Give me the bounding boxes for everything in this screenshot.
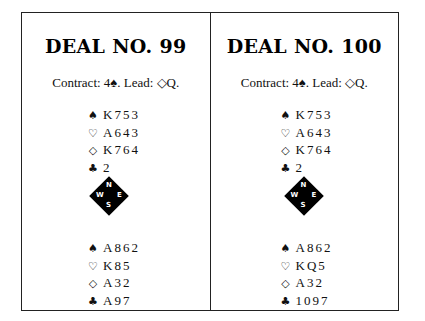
deal-panel-99: DEAL NO. 99 Contract: 4♠. Lead: ◇Q. ♠K75… [22,13,211,310]
hand-row-spades: ♠K753 [279,107,333,125]
club-icon: ♣ [279,294,293,311]
hand-row-diamonds: ◇K764 [279,142,333,160]
hand-row-spades: ♠A862 [279,240,333,258]
cards: A862 [103,240,140,255]
cards: K85 [103,258,131,273]
spade-icon: ♠ [86,241,100,258]
hand-row-diamonds: ◇K764 [86,142,140,160]
hand-row-hearts: ♡KQ5 [279,258,333,276]
heart-icon: ♡ [279,126,293,143]
spade-icon: ♠ [279,241,293,258]
compass-south-label: S [301,202,306,209]
club-icon: ♣ [279,161,293,178]
diamond-icon: ◇ [279,276,293,293]
south-hand: ♠A862 ♡KQ5 ◇A32 ♣1097 [279,240,333,310]
contract-text: Contract: 4♠. Lead: ◇Q. [211,75,399,91]
hand-row-hearts: ♡K85 [86,258,140,276]
hand-row-clubs: ♣A97 [86,293,140,311]
heart-icon: ♡ [279,259,293,276]
cards: 2 [103,160,112,175]
diamond-icon: ◇ [279,143,293,160]
hand-row-diamonds: ◇A32 [279,275,333,293]
club-icon: ♣ [86,294,100,311]
hand-row-diamonds: ◇A32 [86,275,140,293]
cards: A862 [296,240,333,255]
cards: K764 [296,142,333,157]
compass-east-label: E [312,192,317,199]
heart-icon: ♡ [86,126,100,143]
hand-row-hearts: ♡A643 [279,125,333,143]
spade-icon: ♠ [86,108,100,125]
compass-east-label: E [117,192,122,199]
compass-south-label: S [106,202,111,209]
cards: A643 [296,125,333,140]
compass-diagram: N W E S [89,176,129,216]
south-hand: ♠A862 ♡K85 ◇A32 ♣A97 [86,240,140,310]
spade-icon: ♠ [279,108,293,125]
hand-row-spades: ♠A862 [86,240,140,258]
hand-row-clubs: ♣2 [86,160,140,178]
diamond-icon: ◇ [86,143,100,160]
hand-row-hearts: ♡A643 [86,125,140,143]
heart-icon: ♡ [86,259,100,276]
hand-row-clubs: ♣2 [279,160,333,178]
diamond-icon: ◇ [86,276,100,293]
deal-panel-100: DEAL NO. 100 Contract: 4♠. Lead: ◇Q. ♠K7… [211,13,399,310]
cards: 2 [296,160,305,175]
north-hand: ♠K753 ♡A643 ◇K764 ♣2 [279,107,333,177]
compass-west-label: W [96,192,104,199]
hand-row-clubs: ♣1097 [279,293,333,311]
cards: A32 [296,275,324,290]
cards: A32 [103,275,131,290]
cards: A97 [103,293,131,308]
cards: 1097 [296,293,330,308]
club-icon: ♣ [86,161,100,178]
deal-title: DEAL NO. 99 [22,35,210,57]
compass-north-label: N [106,182,112,189]
compass-west-label: W [291,192,299,199]
deals-frame: DEAL NO. 99 Contract: 4♠. Lead: ◇Q. ♠K75… [21,12,399,311]
deal-title: DEAL NO. 100 [211,35,399,57]
cards: A643 [103,125,140,140]
cards: K753 [103,107,140,122]
cards: K764 [103,142,140,157]
compass-north-label: N [301,182,307,189]
hand-row-spades: ♠K753 [86,107,140,125]
contract-text: Contract: 4♠. Lead: ◇Q. [22,75,210,91]
north-hand: ♠K753 ♡A643 ◇K764 ♣2 [86,107,140,177]
cards: KQ5 [296,258,327,273]
cards: K753 [296,107,333,122]
compass-diagram: N W E S [284,176,324,216]
